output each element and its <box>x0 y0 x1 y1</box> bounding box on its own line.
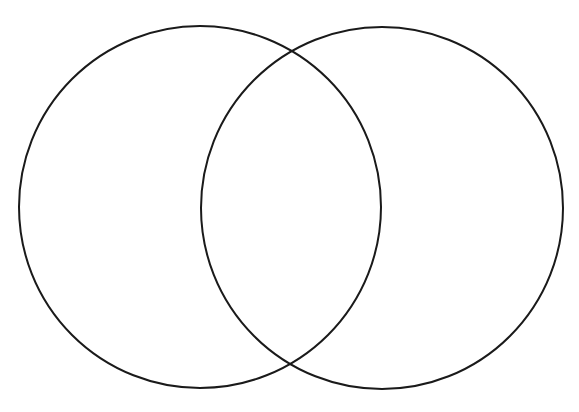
background <box>0 0 579 412</box>
venn-diagram <box>0 0 579 412</box>
venn-svg <box>0 0 579 412</box>
